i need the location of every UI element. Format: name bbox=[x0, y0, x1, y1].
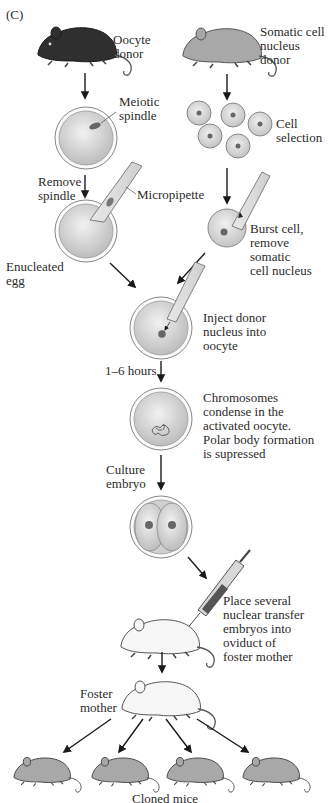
label-enucleated-egg: Enucleated egg bbox=[6, 260, 64, 288]
label-cloned-mice: Cloned mice bbox=[132, 792, 198, 803]
label-place-embryos: Place several nuclear transfer embryos i… bbox=[223, 594, 304, 664]
label-somatic-donor: Somatic cell nucleus donor bbox=[260, 25, 325, 67]
label-remove-spindle: Remove spindle bbox=[38, 175, 81, 203]
arrow bbox=[188, 557, 206, 578]
arrow bbox=[119, 719, 143, 752]
arrow bbox=[64, 719, 111, 752]
injection-cell bbox=[130, 262, 205, 359]
activated-oocyte bbox=[130, 388, 192, 450]
label-micropipette: Micropipette bbox=[137, 188, 204, 202]
label-inject-donor: Inject donor nucleus into oocyte bbox=[203, 311, 266, 353]
cloned-mouse-3 bbox=[167, 757, 234, 792]
label-cell-selection: Cell selection bbox=[276, 117, 322, 145]
cloned-mouse-2 bbox=[92, 757, 159, 792]
label-burst-cell: Burst cell, remove somatic cell nucleus bbox=[250, 222, 328, 278]
cloned-mouse-1 bbox=[14, 757, 81, 792]
label-hours: 1–6 hours bbox=[105, 364, 157, 378]
two-cell-embryo bbox=[130, 496, 192, 558]
oocyte-cell bbox=[55, 107, 117, 169]
label-meiotic-spindle: Meiotic spindle bbox=[119, 95, 159, 123]
panel-label: (C) bbox=[6, 8, 23, 22]
label-foster-mother: Foster mother bbox=[80, 687, 117, 715]
arrow bbox=[166, 719, 191, 752]
label-oocyte-donor: Oocyte donor bbox=[113, 33, 151, 61]
arrow bbox=[110, 263, 135, 287]
label-culture-embryo: Culture embryo bbox=[106, 463, 146, 491]
micropipette-icon bbox=[90, 162, 142, 222]
label-chromosomes: Chromosomes condense in the activated oo… bbox=[203, 391, 314, 461]
recipient-mouse bbox=[121, 619, 214, 667]
arrow bbox=[197, 719, 248, 752]
somatic-cells bbox=[187, 101, 272, 158]
cloned-mouse-4 bbox=[243, 757, 310, 792]
